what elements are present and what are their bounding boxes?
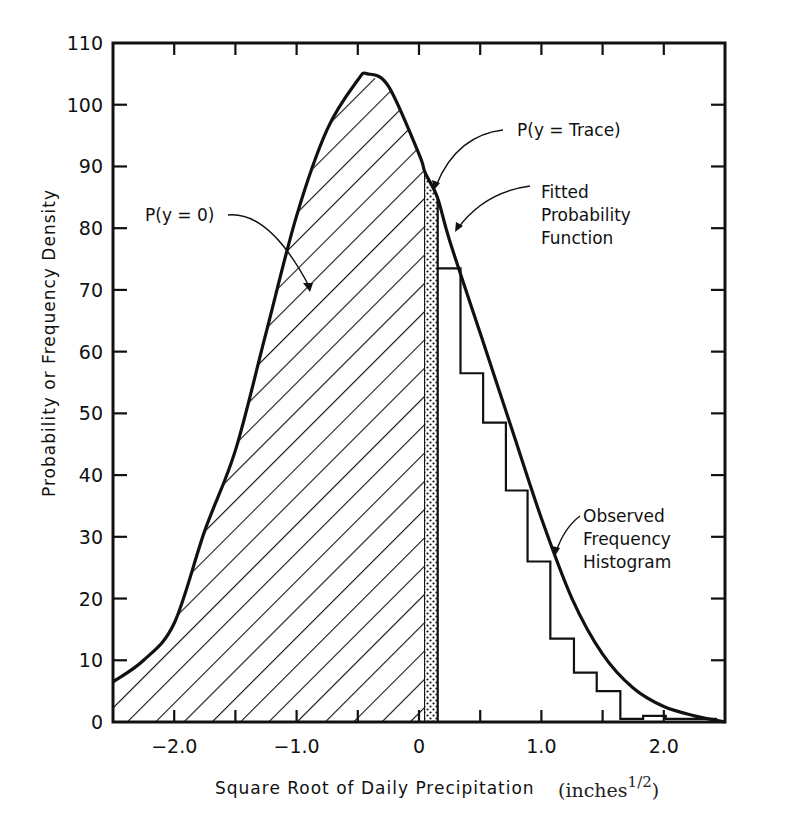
y-tick-label: 10 — [79, 649, 103, 671]
y-tick-label: 100 — [67, 94, 103, 116]
chart-canvas: 0102030405060708090100110−2.0−1.001.02.0… — [0, 0, 786, 834]
annotation-p-zero: P(y = 0) — [145, 205, 214, 225]
y-axis-title: Probability or Frequency Density — [39, 189, 59, 497]
arrow-p-trace — [436, 130, 503, 186]
annotation-fitted-line3: Function — [541, 228, 613, 248]
trace-probability-region — [425, 173, 438, 722]
annotation-observed-line2: Frequency — [583, 529, 671, 549]
y-tick-label: 20 — [79, 588, 103, 610]
arrow-observed — [556, 516, 580, 552]
x-tick-label: 0 — [413, 735, 425, 757]
shaded-regions — [113, 74, 438, 722]
y-tick-label: 90 — [79, 155, 103, 177]
y-tick-label: 50 — [79, 402, 103, 424]
y-tick-label: 40 — [79, 464, 103, 486]
annotation-fitted-line1: Fitted — [541, 182, 589, 202]
annotation-p-trace: P(y = Trace) — [517, 120, 621, 140]
annotation-observed-line3: Histogram — [583, 552, 671, 572]
y-tick-label: 80 — [79, 217, 103, 239]
x-tick-label: 2.0 — [649, 735, 679, 757]
y-tick-label: 60 — [79, 341, 103, 363]
x-tick-label: −2.0 — [151, 735, 197, 757]
y-tick-label: 30 — [79, 526, 103, 548]
arrow-fitted — [458, 186, 530, 228]
x-tick-label: 1.0 — [526, 735, 556, 757]
x-axis-units: (inches1/2) — [558, 773, 659, 801]
x-tick-label: −1.0 — [274, 735, 320, 757]
y-tick-label: 0 — [91, 711, 103, 733]
y-tick-label: 70 — [79, 279, 103, 301]
zero-probability-region — [113, 74, 425, 722]
annotation-fitted-line2: Probability — [541, 205, 631, 225]
x-axis-title: Square Root of Daily Precipitation — [215, 778, 535, 798]
chart: 0102030405060708090100110−2.0−1.001.02.0… — [0, 0, 786, 834]
annotation-observed-line1: Observed — [583, 506, 665, 526]
y-tick-label: 110 — [67, 32, 103, 54]
